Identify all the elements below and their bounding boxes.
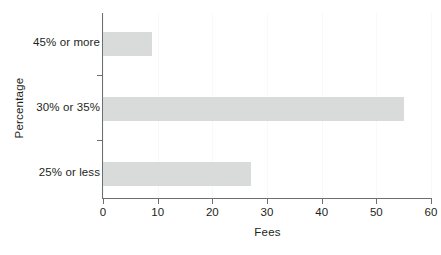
bar-45-or-more: [103, 32, 152, 56]
x-axis-title: Fees: [103, 226, 432, 238]
x-axis-tick-label-40: 40: [302, 206, 342, 218]
x-axis-tick-40: [322, 199, 323, 204]
x-axis-tick-10: [158, 199, 159, 204]
y-axis-tick-label-30-or-35: 30% or 35%: [0, 101, 100, 113]
x-axis-tick-20: [212, 199, 213, 204]
x-axis-tick-label-10: 10: [138, 206, 178, 218]
x-axis-tick-0: [103, 199, 104, 204]
y-axis-tick-2: [97, 140, 103, 141]
bar-chart: Percentage 45% or more 30% or 35% 25% or…: [0, 0, 441, 255]
plot-area: [103, 13, 431, 198]
x-axis-tick-60: [431, 199, 432, 204]
gridline-60: [431, 13, 432, 198]
y-axis-line: [102, 13, 103, 199]
x-axis-tick-label-30: 30: [247, 206, 287, 218]
x-axis-tick-label-50: 50: [356, 206, 396, 218]
x-axis-tick-30: [267, 199, 268, 204]
bar-25-or-less: [103, 162, 251, 186]
x-axis-tick-label-0: 0: [83, 206, 123, 218]
x-axis-tick-50: [376, 199, 377, 204]
bar-30-or-35: [103, 97, 404, 121]
y-axis-tick-1: [97, 75, 103, 76]
x-axis-tick-label-60: 60: [411, 206, 441, 218]
y-axis-tick-label-25-or-less: 25% or less: [0, 166, 100, 178]
y-axis-tick-label-45-or-more: 45% or more: [0, 36, 100, 48]
x-axis-tick-label-20: 20: [192, 206, 232, 218]
